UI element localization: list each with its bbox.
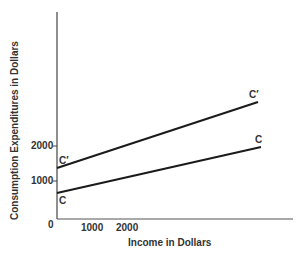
series-c-start-label: C	[59, 195, 66, 206]
x-tick-label-2000: 2000	[116, 222, 138, 233]
y-tick-label-1000: 1000	[31, 175, 53, 186]
series-c-end-label: C	[255, 134, 262, 145]
x-axis-label: Income in Dollars	[128, 237, 211, 248]
series-c-prime-start-label: C′	[59, 155, 69, 166]
y-tick-label-2000: 2000	[31, 140, 53, 151]
series-c-prime-line	[57, 102, 258, 168]
y-axis-label: Consumption Expenditures in Dollars	[9, 41, 20, 220]
chart-canvas	[0, 0, 304, 261]
origin-label: 0	[48, 219, 54, 230]
series-c-prime-end-label: C′	[249, 89, 259, 100]
x-tick-label-1000: 1000	[81, 222, 103, 233]
series-c-line	[57, 147, 261, 193]
